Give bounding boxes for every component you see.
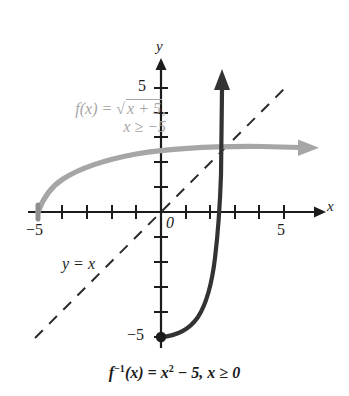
radical-sign-icon: √	[116, 100, 125, 118]
inverse-curve-arrowhead	[214, 69, 230, 90]
function-fx-prefix: f(x) =	[75, 100, 116, 117]
x-tick-label-5: 5	[277, 221, 285, 239]
inverse-equation-caption: f−1(x) = x2 − 5, x ≥ 0	[0, 363, 349, 383]
inverse-equation-tail: − 5, x ≥ 0	[174, 364, 240, 381]
y-tick-label-neg5: −5	[127, 326, 144, 344]
math-figure: f(x) = √x + 5, x ≥ −5 y = x f−1(x) = x2 …	[0, 0, 349, 396]
coordinate-plane	[0, 0, 349, 396]
origin-label: 0	[166, 214, 174, 232]
inverse-equation-body: (x) = x	[125, 364, 169, 381]
y-axis-label: y	[156, 38, 163, 55]
inverse-curve-endpoint-dot	[156, 332, 166, 342]
y-axis-arrowhead	[156, 58, 167, 70]
x-axis-arrowhead	[314, 207, 326, 218]
function-line-1-comma: ,	[162, 100, 166, 117]
function-equation-line-1: f(x) = √x + 5,	[14, 99, 166, 118]
function-radicand: x + 5	[126, 99, 162, 118]
y-tick-label-5: 5	[138, 77, 146, 95]
x-tick-label-neg5: −5	[26, 221, 43, 239]
function-curve-sqrt	[38, 146, 300, 212]
x-axis-label: x	[327, 198, 334, 215]
identity-line-label: y = x	[62, 255, 95, 273]
inverse-exponent: −1	[114, 363, 125, 374]
function-curve-arrowhead	[298, 140, 319, 157]
function-equation-label: f(x) = √x + 5, x ≥ −5	[14, 99, 166, 137]
function-domain-line: x ≥ −5	[14, 118, 166, 136]
